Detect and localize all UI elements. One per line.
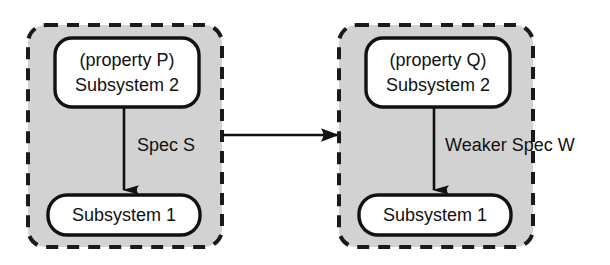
property-p-label: (property P) <box>79 50 174 70</box>
spec-s-edge-label: Spec S <box>137 135 195 155</box>
property-q-subsystem-2-box <box>366 38 510 107</box>
right-subsystem-group: (property Q) Subsystem 2 Weaker Spec W S… <box>339 25 575 247</box>
subsystem-1-label-left: Subsystem 1 <box>72 205 176 225</box>
property-p-subsystem-2-node: (property P) Subsystem 2 <box>55 38 199 107</box>
property-q-subsystem-2-node: (property Q) Subsystem 2 <box>366 38 510 107</box>
diagram-root: (property P) Subsystem 2 Spec S Subsyste… <box>0 0 610 265</box>
left-subsystem-group: (property P) Subsystem 2 Spec S Subsyste… <box>28 25 222 247</box>
property-p-subsystem-2-box <box>55 38 199 107</box>
subsystem-2-label-right: Subsystem 2 <box>386 75 490 95</box>
subsystem-1-label-right: Subsystem 1 <box>383 205 487 225</box>
property-q-label: (property Q) <box>389 50 486 70</box>
subsystem-1-node-right: Subsystem 1 <box>359 195 511 235</box>
diagram-canvas: (property P) Subsystem 2 Spec S Subsyste… <box>0 0 610 265</box>
subsystem-2-label-left: Subsystem 2 <box>75 75 179 95</box>
weaker-spec-w-edge-label: Weaker Spec W <box>445 135 575 155</box>
subsystem-1-node-left: Subsystem 1 <box>48 195 200 235</box>
